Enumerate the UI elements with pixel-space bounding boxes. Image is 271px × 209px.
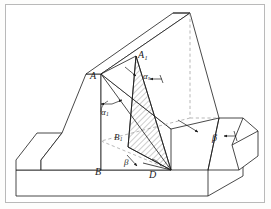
label-point-a1: A1 bbox=[138, 50, 148, 61]
label-point-b: B bbox=[95, 167, 101, 177]
figure-root: A A1 B B1 D α1 αs β β bbox=[0, 0, 271, 209]
diagram-canvas bbox=[0, 0, 271, 209]
label-point-d: D bbox=[149, 170, 156, 180]
label-angle-alpha-s: αs bbox=[143, 72, 150, 82]
label-point-b1: B1 bbox=[114, 133, 123, 143]
right-shoulder-prism bbox=[208, 118, 258, 170]
label-point-a: A bbox=[90, 71, 96, 81]
label-angle-beta-right: β bbox=[212, 133, 217, 143]
label-angle-beta-bottom: β bbox=[124, 158, 128, 167]
label-angle-alpha-1: α1 bbox=[101, 108, 109, 118]
